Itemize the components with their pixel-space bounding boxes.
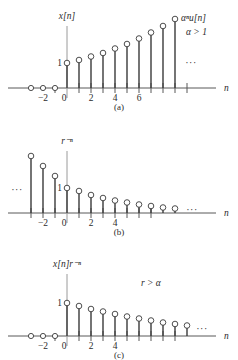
panel-a: 1 x[n] n −2 0 2 4 6 αⁿu[n] α > 1 ··· (a): [0, 0, 238, 102]
panel-a-plot: 1 x[n] n −2 0 2 4 6 αⁿu[n] α > 1 ···: [0, 0, 238, 102]
x-axis-label-a: n: [224, 83, 229, 93]
tick-label-a-0: 0: [62, 93, 67, 102]
tick-label-b-4: 4: [113, 218, 118, 227]
y-axis-label-c: x[n]r⁻ⁿ: [52, 259, 81, 269]
caption-b: (b): [0, 227, 238, 237]
annotation-convergence-condition-c: r > α: [141, 278, 162, 288]
stems-c: [64, 300, 190, 336]
stems-b: [28, 153, 178, 213]
annotation-right-ellipsis-c: ···: [196, 323, 208, 334]
tick-label-a-neg2: −2: [38, 93, 48, 102]
caption-c: (c): [0, 350, 238, 360]
tick-label-b-2: 2: [89, 218, 94, 227]
tick-label-a-2: 2: [89, 93, 94, 102]
tick-label-b-neg2: −2: [38, 218, 48, 227]
y-one-label-b: 1: [57, 183, 62, 193]
zero-samples-a: [28, 85, 57, 90]
y-axis-label-a: x[n]: [58, 11, 76, 21]
panel-b: 1 r⁻ⁿ n −2 0 2 4 ··· ··· (b): [0, 125, 238, 227]
y-one-label-a: 1: [57, 58, 62, 68]
zero-samples-c: [28, 333, 57, 338]
y-axis-label-b: r⁻ⁿ: [61, 136, 73, 146]
panel-b-plot: 1 r⁻ⁿ n −2 0 2 4 ··· ···: [0, 125, 238, 227]
annotation-signal-expression-a: αⁿu[n]: [181, 13, 206, 23]
tick-label-b-0: 0: [62, 218, 67, 227]
annotation-alpha-condition-a: α > 1: [186, 27, 207, 37]
y-one-label-c: 1: [57, 298, 62, 308]
panel-c: 1 x[n]r⁻ⁿ n −2 0 2 4 r > α ··· (c): [0, 248, 238, 350]
figure-container: 1 x[n] n −2 0 2 4 6 αⁿu[n] α > 1 ··· (a): [0, 0, 238, 360]
tick-label-a-6: 6: [137, 93, 142, 102]
tick-label-c-2: 2: [89, 341, 94, 350]
caption-a: (a): [0, 102, 238, 112]
x-axis-label-c: n: [224, 331, 229, 341]
annotation-right-ellipsis-b: ···: [186, 204, 198, 215]
annotation-continuation-ellipsis-a: ···: [185, 57, 197, 68]
panel-c-plot: 1 x[n]r⁻ⁿ n −2 0 2 4 r > α ···: [0, 248, 238, 350]
tick-label-c-neg2: −2: [38, 341, 48, 350]
tick-label-c-4: 4: [113, 341, 118, 350]
annotation-left-ellipsis-b: ···: [11, 184, 23, 195]
stems-a: [64, 16, 178, 88]
tick-label-a-4: 4: [113, 93, 118, 102]
x-axis-label-b: n: [224, 208, 229, 218]
tick-label-c-0: 0: [62, 341, 67, 350]
